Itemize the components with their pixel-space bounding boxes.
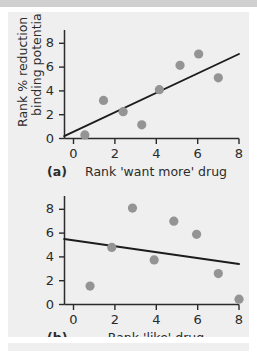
page-top-band	[0, 0, 257, 7]
panel-b-y-ticks	[59, 209, 65, 304]
panel-a-ytick-4: 4	[46, 83, 54, 98]
panel-a-xtick-2: 2	[111, 146, 119, 161]
panel-a-xtick-6: 6	[194, 146, 202, 161]
panel-a-xtick-8: 8	[235, 146, 243, 161]
panel-b-ytick-4: 4	[46, 249, 54, 264]
panel-a-ytick-2: 2	[46, 107, 54, 122]
panel-b-ytick-8: 8	[46, 201, 54, 216]
data-point	[214, 269, 223, 278]
panel-b-xtick-0: 0	[69, 312, 77, 327]
data-point	[137, 120, 146, 129]
data-point	[192, 230, 201, 239]
data-point	[194, 49, 203, 58]
data-point	[85, 281, 94, 290]
panel-b-ytick-2: 2	[46, 273, 54, 288]
panel-b-plot: 0 2 4 6 8 0 2 4 6 8 (b)	[8, 172, 249, 337]
data-point	[155, 85, 164, 94]
panel-a-ylabel-line2: binding potential	[29, 12, 44, 116]
panel-b-xtick-2: 2	[111, 312, 119, 327]
panel-b: 0 2 4 6 8 0 2 4 6 8 (b)	[8, 172, 249, 337]
panel-b-xlabel: Rank 'like' drug	[108, 330, 204, 337]
panel-b-ytick-6: 6	[46, 225, 54, 240]
data-point	[99, 96, 108, 105]
data-point	[107, 243, 116, 252]
panel-a-regression-line	[64, 54, 239, 136]
panel-b-x-ticklabels: 0 2 4 6 8	[69, 312, 243, 327]
panel-a-y-ticks	[59, 43, 65, 138]
panel-b-letter: (b)	[47, 330, 67, 337]
panel-a-ytick-6: 6	[46, 59, 54, 74]
panel-b-x-ticks	[74, 305, 240, 311]
panel-a-plot: Rank % reduction in RAC binding potentia…	[8, 12, 249, 182]
data-point	[80, 130, 89, 139]
figure-sheet: Rank % reduction in RAC binding potentia…	[8, 12, 249, 337]
panel-b-xtick-6: 6	[194, 312, 202, 327]
data-point	[119, 107, 128, 116]
panel-b-ytick-0: 0	[46, 297, 54, 312]
data-point	[214, 73, 223, 82]
data-point	[234, 295, 243, 304]
page-bottom-band	[8, 343, 249, 351]
panel-a-ylabel-line1: Rank % reduction in RAC	[15, 12, 30, 127]
data-point	[175, 61, 184, 70]
panel-a: Rank % reduction in RAC binding potentia…	[8, 12, 249, 182]
panel-a-x-ticks	[74, 139, 240, 145]
panel-a-x-ticklabels: 0 2 4 6 8	[69, 146, 243, 161]
panel-a-y-ticklabels: 0 2 4 6 8	[46, 35, 54, 146]
data-point	[128, 204, 137, 213]
panel-a-ytick-0: 0	[46, 131, 54, 146]
data-point	[169, 217, 178, 226]
panel-b-y-ticklabels: 0 2 4 6 8	[46, 201, 54, 312]
panel-a-xtick-0: 0	[69, 146, 77, 161]
data-point	[150, 255, 159, 264]
panel-b-xtick-4: 4	[152, 312, 160, 327]
panel-a-xtick-4: 4	[152, 146, 160, 161]
panel-b-xtick-8: 8	[235, 312, 243, 327]
panel-a-ytick-8: 8	[46, 35, 54, 50]
